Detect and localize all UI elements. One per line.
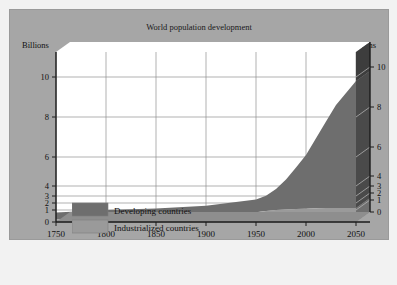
y-tick-label-right: 6 — [377, 142, 381, 152]
plot-ceiling — [56, 42, 370, 52]
y-tick-label-right: 8 — [377, 102, 381, 112]
y-tick-label-right: 3 — [377, 181, 381, 191]
y-tick-label-right: 0 — [377, 207, 381, 217]
chart-title: World population development — [146, 22, 252, 32]
y-tick-label-right: 10 — [377, 62, 386, 72]
y-tick-label-left: 10 — [41, 72, 50, 82]
y-tick-label-left: 0 — [45, 217, 49, 227]
chart-legend: Developing countriesIndustrialized count… — [72, 201, 262, 237]
x-tick-label: 2000 — [297, 229, 316, 239]
legend-swatch — [72, 220, 108, 233]
legend-label: Industrialized countries — [114, 223, 199, 233]
y-tick-label-left: 8 — [45, 112, 49, 122]
chart-panel: World population development Billions Bi… — [10, 10, 388, 239]
x-tick-label: 1750 — [47, 229, 66, 239]
x-tick-label: 2050 — [347, 229, 366, 239]
legend-label: Developing countries — [114, 206, 192, 216]
y-tick-label-left: 6 — [45, 152, 49, 162]
y-axis-label-left: Billions — [22, 40, 49, 50]
y-tick-label-left: 3 — [45, 191, 49, 201]
legend-swatch — [72, 203, 108, 216]
